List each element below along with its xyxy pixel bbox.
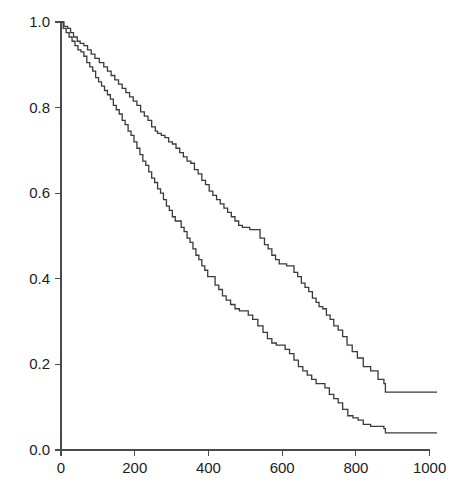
x-tick-label-200: 200 <box>122 459 147 476</box>
x-axis: 02004006008001000 <box>57 450 446 476</box>
x-tick-label-0: 0 <box>57 459 65 476</box>
y-tick-label-0.8: 0.8 <box>29 99 50 116</box>
y-tick-label-0.4: 0.4 <box>29 270 50 287</box>
kaplan-meier-plot: 0.00.20.40.60.81.0 02004006008001000 <box>0 0 467 487</box>
km-upper-curve <box>61 22 437 392</box>
x-tick-label-1000: 1000 <box>413 459 446 476</box>
y-axis: 0.00.20.40.60.81.0 <box>29 13 61 458</box>
x-tick-label-800: 800 <box>343 459 368 476</box>
survival-chart-figure: 0.00.20.40.60.81.0 02004006008001000 <box>0 0 467 487</box>
x-tick-label-400: 400 <box>196 459 221 476</box>
x-tick-label-600: 600 <box>270 459 295 476</box>
y-tick-label-0.2: 0.2 <box>29 355 50 372</box>
curve-series-group <box>61 22 437 433</box>
y-tick-label-0.0: 0.0 <box>29 441 50 458</box>
y-tick-label-0.6: 0.6 <box>29 184 50 201</box>
y-tick-label-1.0: 1.0 <box>29 13 50 30</box>
